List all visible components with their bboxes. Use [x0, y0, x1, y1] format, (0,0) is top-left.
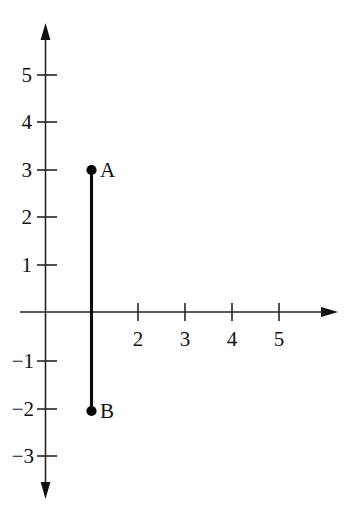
y-tick-label-4: 4: [22, 110, 33, 134]
x-axis-right-arrow-icon: [321, 307, 338, 317]
y-tick-label-neg2: −2: [12, 397, 34, 421]
point-a-dot: [86, 165, 96, 175]
x-axis-group: [20, 307, 338, 317]
point-b-label: B: [100, 399, 114, 423]
y-tick-label-2: 2: [22, 205, 33, 229]
y-axis-down-arrow-icon: [41, 482, 51, 499]
x-tick-label-3: 3: [180, 327, 191, 351]
y-axis-group: [41, 23, 51, 499]
y-axis-ticks: [37, 75, 57, 456]
x-tick-label-4: 4: [227, 327, 238, 351]
y-tick-label-neg1: −1: [12, 349, 34, 373]
x-tick-label-5: 5: [274, 327, 285, 351]
x-axis-tick-labels: 2 3 4 5: [133, 327, 285, 351]
point-a-label: A: [100, 158, 116, 182]
point-b-dot: [86, 406, 96, 416]
y-axis-up-arrow-icon: [41, 23, 51, 40]
y-tick-label-5: 5: [22, 63, 33, 87]
coordinate-plane-figure: 5 4 3 2 1 −1 −2 −3 2 3 4 5: [0, 0, 357, 513]
y-tick-label-1: 1: [22, 253, 33, 277]
coordinate-plane-svg: 5 4 3 2 1 −1 −2 −3 2 3 4 5: [0, 0, 357, 513]
x-tick-label-2: 2: [133, 327, 144, 351]
y-tick-label-3: 3: [22, 158, 33, 182]
y-tick-label-neg3: −3: [12, 444, 34, 468]
y-axis-tick-labels: 5 4 3 2 1 −1 −2 −3: [12, 63, 34, 468]
